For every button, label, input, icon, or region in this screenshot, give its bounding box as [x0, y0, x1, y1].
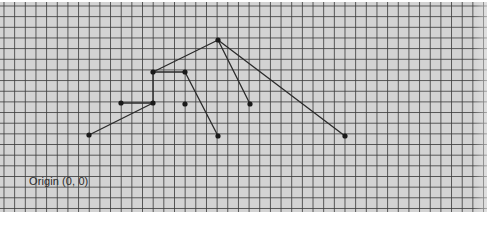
graph-node	[247, 101, 252, 106]
graph-edge	[218, 40, 345, 136]
graph-node	[86, 132, 91, 137]
graph-node	[150, 69, 155, 74]
graph-edge	[153, 40, 218, 72]
graph-node	[150, 100, 155, 105]
graph-edge	[185, 72, 218, 136]
graph-node	[215, 133, 220, 138]
nodes-layer	[86, 37, 347, 138]
graph-node	[215, 37, 220, 42]
edges-layer	[89, 40, 345, 136]
graph-node	[118, 100, 123, 105]
graph-node	[182, 101, 187, 106]
graph-node	[182, 69, 187, 74]
graph-edge	[89, 103, 153, 135]
graph-node	[342, 133, 347, 138]
graph-edge	[218, 40, 250, 104]
origin-label: Origin (0, 0)	[29, 175, 88, 187]
